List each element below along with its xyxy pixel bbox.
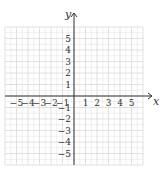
x-tick-label: 1	[83, 98, 89, 108]
coordinate-plane: −5−4−3−2−112345 54321−1−2−3−4−5 x y	[0, 0, 164, 177]
x-axis-label: x	[153, 95, 160, 108]
y-tick-label: 2	[65, 68, 71, 78]
y-tick-label: −3	[58, 126, 72, 136]
y-tick-label: 4	[65, 45, 71, 55]
y-tick-label: 5	[65, 34, 71, 44]
x-tick-label: 4	[117, 98, 123, 108]
y-tick-label: −1	[58, 103, 71, 113]
y-tick-label: −2	[58, 114, 71, 124]
y-tick-label: −4	[58, 137, 72, 147]
y-axis-label: y	[64, 8, 72, 21]
x-tick-labels: −5−4−3−2−112345	[10, 98, 135, 108]
y-tick-label: −5	[58, 149, 72, 159]
y-tick-label: 1	[65, 80, 71, 90]
x-tick-label: 5	[129, 98, 135, 108]
y-tick-label: 3	[65, 57, 71, 67]
x-tick-label: 2	[94, 98, 100, 108]
x-tick-label: 3	[106, 98, 112, 108]
